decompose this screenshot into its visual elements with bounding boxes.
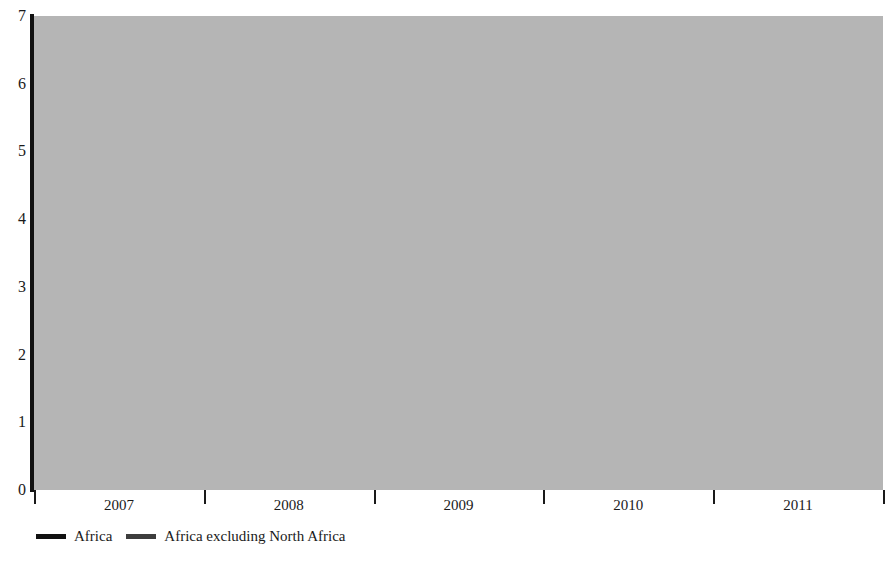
legend-label: Africa excluding North Africa <box>164 528 345 545</box>
chart-title-strip <box>0 0 887 9</box>
y-axis-tick-label: 2 <box>0 346 26 364</box>
legend-item[interactable]: Africa <box>36 528 112 545</box>
x-axis-tick <box>204 490 206 504</box>
x-axis-tick <box>34 490 36 504</box>
x-axis-tick <box>713 490 715 504</box>
x-axis-tick <box>883 490 885 504</box>
y-axis-tick-label: 0 <box>0 481 26 499</box>
x-axis-tick-label: 2008 <box>274 497 304 514</box>
x-axis-tick-label: 2009 <box>444 497 474 514</box>
y-axis-tick-label: 7 <box>0 7 26 25</box>
chart-legend: AfricaAfrica excluding North Africa <box>36 528 346 545</box>
y-axis-tick-label: 6 <box>0 75 26 93</box>
legend-item[interactable]: Africa excluding North Africa <box>126 528 345 545</box>
y-axis-line <box>30 14 34 492</box>
chart-root: 76543210 20072008200920102011 AfricaAfri… <box>0 0 887 563</box>
x-axis-tick-label: 2011 <box>783 497 812 514</box>
x-axis-tick-label: 2007 <box>104 497 134 514</box>
x-axis-tick <box>374 490 376 504</box>
x-axis-tick <box>543 490 545 504</box>
legend-swatch-icon <box>36 534 66 539</box>
legend-swatch-icon <box>126 534 156 539</box>
plot-background <box>34 16 883 490</box>
legend-label: Africa <box>74 528 112 545</box>
y-axis-tick-label: 4 <box>0 210 26 228</box>
x-axis-tick-label: 2010 <box>613 497 643 514</box>
plot-area <box>34 16 883 490</box>
y-axis-tick-label: 5 <box>0 142 26 160</box>
y-axis-tick-label: 1 <box>0 413 26 431</box>
y-axis-tick-label: 3 <box>0 278 26 296</box>
